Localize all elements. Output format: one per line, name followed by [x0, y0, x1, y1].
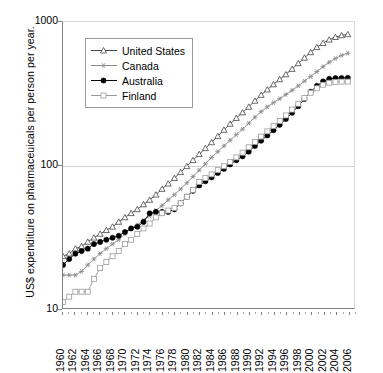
x-tick-mark [112, 312, 113, 315]
filled-circle-marker [79, 249, 84, 254]
open-square-marker [172, 206, 177, 211]
asterisk-marker [67, 273, 72, 277]
open-triangle-marker [128, 210, 134, 215]
x-tick-mark [124, 312, 125, 315]
x-tick-label: 1980 [180, 349, 191, 372]
open-square-marker [327, 80, 332, 85]
x-tick-mark-minor [305, 312, 306, 314]
filled-circle-icon [91, 75, 117, 87]
filled-circle-marker [147, 211, 152, 216]
open-square-marker [191, 187, 196, 192]
legend-item-canada[interactable]: Canada [91, 58, 185, 73]
open-square-marker [122, 242, 127, 247]
x-tick-label: 1992 [254, 349, 265, 372]
open-square-marker [67, 294, 72, 299]
x-tick-label: 1974 [142, 349, 153, 372]
x-tick-label: 1978 [167, 349, 178, 372]
x-tick-mark [174, 312, 175, 315]
open-square-marker [259, 134, 264, 139]
x-tick-mark [349, 312, 350, 315]
open-square-marker [91, 276, 96, 281]
legend-item-australia[interactable]: Australia [91, 73, 185, 88]
x-tick-mark-minor [330, 312, 331, 314]
open-square-marker [79, 289, 84, 294]
open-triangle-marker [122, 214, 128, 219]
x-tick-label: 1986 [217, 349, 228, 372]
open-square-marker [345, 79, 350, 84]
asterisk-marker [73, 273, 78, 277]
y-tick-mark [58, 309, 62, 310]
open-square-marker [271, 124, 276, 129]
x-tick-label: 1976 [155, 349, 166, 372]
x-tick-mark [199, 312, 200, 315]
open-triangle-marker [345, 31, 351, 36]
x-tick-mark-minor [243, 312, 244, 314]
open-triangle-marker [320, 40, 326, 45]
open-square-marker [221, 164, 226, 169]
asterisk-marker [339, 53, 344, 57]
legend-item-label: United States [122, 45, 185, 57]
x-tick-mark-minor [293, 312, 294, 314]
x-tick-mark [62, 312, 63, 315]
open-triangle-marker [91, 235, 97, 240]
open-triangle-marker [103, 227, 109, 232]
y-axis-ticks: 100010010 [0, 0, 62, 373]
open-triangle-marker [116, 219, 122, 224]
open-triangle-marker [101, 48, 107, 53]
filled-circle-marker [101, 78, 106, 83]
x-tick-mark-minor [81, 312, 82, 314]
x-tick-label: 1960 [55, 349, 66, 372]
open-square-marker [141, 226, 146, 231]
x-tick-mark-minor [280, 312, 281, 314]
x-tick-label: 1970 [117, 349, 128, 372]
open-square-marker [166, 208, 171, 213]
open-triangle-marker [63, 253, 66, 258]
open-square-marker [116, 249, 121, 254]
open-square-marker [197, 180, 202, 185]
open-square-marker [215, 168, 220, 173]
open-square-marker [265, 129, 270, 134]
x-tick-mark-minor [355, 312, 356, 314]
x-tick-label: 1984 [205, 349, 216, 372]
filled-circle-marker [135, 224, 140, 229]
open-square-marker [246, 145, 251, 150]
x-tick-mark [212, 312, 213, 315]
y-tick-label: 10 [0, 303, 58, 314]
filled-circle-marker [116, 233, 121, 238]
x-axis-ticks: 1960196219641966196819701972197419761978… [62, 312, 355, 372]
x-tick-mark [261, 312, 262, 315]
open-square-marker [240, 150, 245, 155]
filled-circle-marker [122, 229, 127, 234]
filled-circle-marker [129, 226, 134, 231]
x-tick-label: 1972 [130, 349, 141, 372]
legend-item-finland[interactable]: Finland [91, 88, 185, 103]
filled-circle-marker [63, 262, 66, 267]
asterisk-marker [101, 63, 106, 68]
open-square-marker [333, 79, 338, 84]
asterisk-marker [63, 273, 66, 277]
x-tick-mark-minor [180, 312, 181, 314]
x-tick-mark [274, 312, 275, 315]
open-square-marker [184, 194, 189, 199]
x-tick-mark-minor [156, 312, 157, 314]
x-tick-mark [237, 312, 238, 315]
x-tick-mark-minor [318, 312, 319, 314]
x-tick-mark-minor [168, 312, 169, 314]
x-tick-label: 1966 [92, 349, 103, 372]
open-square-marker [135, 231, 140, 236]
filled-circle-marker [73, 251, 78, 256]
x-tick-label: 1988 [230, 349, 241, 372]
open-square-marker [290, 107, 295, 112]
x-tick-label: 2002 [317, 349, 328, 372]
x-tick-mark-minor [205, 312, 206, 314]
open-square-marker [209, 172, 214, 177]
filled-circle-marker [98, 239, 103, 244]
open-square-marker [203, 176, 208, 181]
open-square-marker [160, 211, 165, 216]
x-tick-mark-minor [93, 312, 94, 314]
x-tick-mark [74, 312, 75, 315]
x-tick-label: 1990 [242, 349, 253, 372]
legend-item-united-states[interactable]: United States [91, 43, 185, 58]
open-square-marker [308, 90, 313, 95]
x-tick-mark-minor [143, 312, 144, 314]
